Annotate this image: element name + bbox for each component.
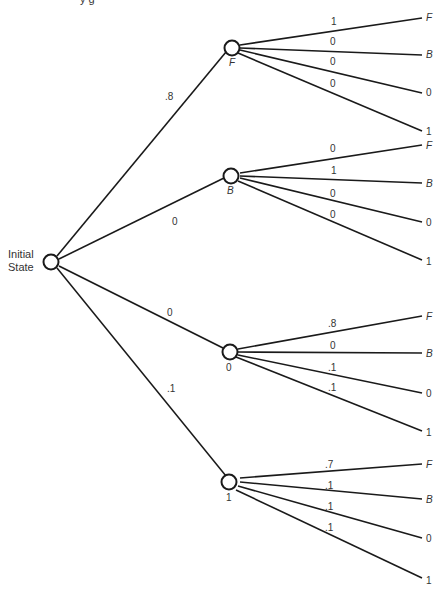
leaf-1-B: B xyxy=(426,494,433,505)
leaf-1-F: F xyxy=(426,459,432,470)
node-label-1: 1 xyxy=(226,492,232,503)
node-label-0: 0 xyxy=(226,362,232,373)
leaf-B-0: 0 xyxy=(426,217,432,228)
node-1 xyxy=(222,475,237,490)
edge-root-B xyxy=(59,178,224,259)
leaf-F-B: B xyxy=(426,49,433,60)
prob-F-0: 0 xyxy=(330,56,336,67)
node-initial-state xyxy=(44,255,59,270)
leaf-B-1: 1 xyxy=(426,256,432,267)
leaf-1-0: 0 xyxy=(426,533,432,544)
prob-1-B: .1 xyxy=(325,480,333,491)
prob-0-1: .1 xyxy=(328,382,336,393)
leaf-F-F: F xyxy=(426,12,432,23)
prob-F-F: 1 xyxy=(331,16,337,27)
prob-0-0: .1 xyxy=(328,362,336,373)
prob-1-F: .7 xyxy=(325,459,333,470)
prob-root-1: .1 xyxy=(167,383,175,394)
leaf-0-F: F xyxy=(426,311,432,322)
node-0 xyxy=(223,345,238,360)
leaf-F-0: 0 xyxy=(426,87,432,98)
node-label-B: B xyxy=(227,185,234,196)
prob-root-F: .8 xyxy=(165,91,173,102)
prob-0-B: 0 xyxy=(330,340,336,351)
node-B xyxy=(224,169,239,184)
edge-root-F xyxy=(57,52,226,256)
leaf-B-B: B xyxy=(426,178,433,189)
initial-label-line2: State xyxy=(8,261,34,274)
prob-B-B: 1 xyxy=(331,165,337,176)
initial-label-line1: Initial xyxy=(8,248,34,261)
prob-B-0: 0 xyxy=(330,188,336,199)
prob-B-F: 0 xyxy=(330,143,336,154)
prob-1-0: .1 xyxy=(325,501,333,512)
node-label-F: F xyxy=(229,57,235,68)
leaf-0-B: B xyxy=(426,348,433,359)
leaf-1-1: 1 xyxy=(426,575,432,586)
prob-root-0: 0 xyxy=(167,307,173,318)
prob-1-1: .1 xyxy=(325,522,333,533)
edge-root-0 xyxy=(59,266,223,348)
prob-F-B: 0 xyxy=(330,36,336,47)
leaf-0-0: 0 xyxy=(426,388,432,399)
leaf-B-F: F xyxy=(426,140,432,151)
initial-state-label: Initial State xyxy=(8,248,34,274)
edge-root-1 xyxy=(57,268,226,476)
leaf-F-1: 1 xyxy=(426,126,432,137)
prob-root-B: 0 xyxy=(172,216,178,227)
tree-diagram xyxy=(0,0,447,600)
prob-F-1: 0 xyxy=(330,78,336,89)
prob-0-F: .8 xyxy=(328,318,336,329)
leaf-0-1: 1 xyxy=(426,427,432,438)
node-F xyxy=(225,41,240,56)
prob-B-1: 0 xyxy=(330,209,336,220)
